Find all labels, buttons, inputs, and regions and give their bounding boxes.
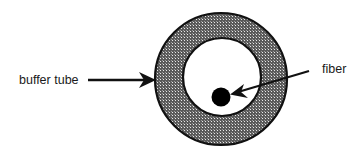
buffer-tube-label: buffer tube [19, 74, 79, 87]
buffer-tube-arrow [88, 72, 156, 88]
fiber-core [212, 88, 231, 107]
diagram-canvas: buffer tube fiber [0, 0, 363, 153]
fiber-label: fiber [322, 63, 346, 76]
